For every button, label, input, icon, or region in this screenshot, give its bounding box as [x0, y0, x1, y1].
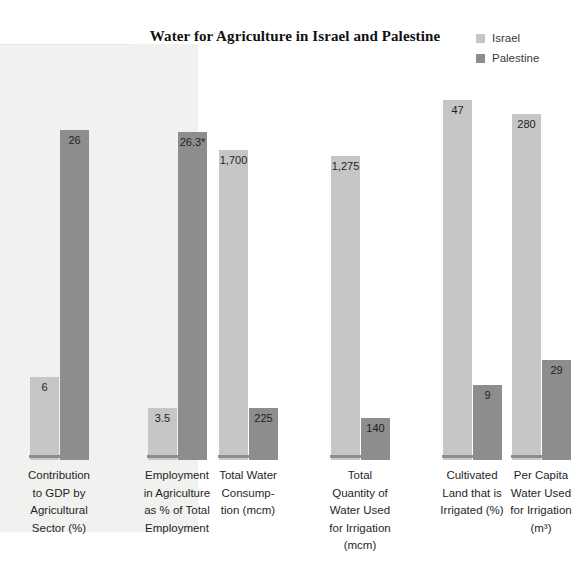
bar-value-palestine: 9 — [473, 389, 502, 402]
legend-item-israel: Israel — [476, 28, 539, 48]
category-text: Contribution to GDP by Agricultural Sect… — [14, 467, 104, 537]
category-rule — [218, 455, 278, 458]
bar-israel[interactable]: 3.5 — [148, 408, 177, 460]
plot-area: 6 26 3.5 26.3* 1,700 — [0, 60, 584, 460]
category-label-2: Total Water Consump- tion (mcm) — [203, 455, 293, 520]
bar-pair: 6 26 — [30, 68, 89, 460]
bar-pair: 1,700 225 — [219, 68, 278, 460]
bar-palestine[interactable]: 9 — [473, 385, 502, 460]
category-text: Per Capita Water Used for Irrigation (m³… — [496, 467, 584, 537]
bar-israel[interactable]: 6 — [30, 377, 59, 460]
bar-group: 6 26 — [30, 68, 89, 460]
bar-value-israel: 1,275 — [331, 160, 360, 173]
bar-palestine[interactable]: 225 — [249, 408, 278, 460]
bar-value-israel: 47 — [443, 104, 472, 117]
bar-israel[interactable]: 47 — [443, 100, 472, 460]
bar-value-palestine: 29 — [542, 364, 571, 377]
category-rule — [511, 455, 571, 458]
category-rule — [442, 455, 502, 458]
bar-group: 3.5 26.3* — [148, 68, 207, 460]
chart-title: Water for Agriculture in Israel and Pale… — [132, 28, 458, 45]
bar-palestine[interactable]: 26.3* — [178, 132, 207, 460]
bar-value-palestine: 26 — [60, 134, 89, 147]
bar-pair: 1,275 140 — [331, 68, 390, 460]
top-divider-rule — [0, 44, 132, 45]
bar-israel[interactable]: 280 — [512, 114, 541, 460]
category-text: Total Water Consump- tion (mcm) — [203, 467, 293, 520]
category-label-5: Per Capita Water Used for Irrigation (m³… — [496, 455, 584, 537]
category-rule — [29, 455, 89, 458]
bar-value-israel: 280 — [512, 118, 541, 131]
category-label-3: Total Quantity of Water Used for Irrigat… — [315, 455, 405, 555]
bar-value-israel: 1,700 — [219, 154, 248, 167]
bar-group: 1,700 225 — [219, 68, 278, 460]
bar-group: 47 9 — [443, 68, 502, 460]
chart-root: Water for Agriculture in Israel and Pale… — [0, 0, 584, 581]
legend-swatch-israel — [476, 34, 485, 43]
bar-palestine[interactable]: 29 — [542, 360, 571, 460]
bar-palestine[interactable]: 26 — [60, 130, 89, 460]
legend-label-israel: Israel — [492, 32, 520, 44]
bar-palestine[interactable]: 140 — [361, 418, 390, 460]
bar-pair: 47 9 — [443, 68, 502, 460]
bar-israel[interactable]: 1,275 — [331, 156, 360, 460]
bar-value-palestine: 26.3* — [178, 136, 207, 149]
category-label-0: Contribution to GDP by Agricultural Sect… — [14, 455, 104, 537]
bar-value-palestine: 225 — [249, 412, 278, 425]
bar-pair: 280 29 — [512, 68, 571, 460]
category-text: Total Quantity of Water Used for Irrigat… — [315, 467, 405, 555]
bar-value-israel: 6 — [30, 381, 59, 394]
category-axis-labels: Contribution to GDP by Agricultural Sect… — [0, 455, 584, 581]
category-rule — [147, 455, 207, 458]
bar-value-palestine: 140 — [361, 422, 390, 435]
bar-value-israel: 3.5 — [148, 412, 177, 425]
bar-group: 1,275 140 — [331, 68, 390, 460]
category-rule — [330, 455, 390, 458]
bar-pair: 3.5 26.3* — [148, 68, 207, 460]
bar-group: 280 29 — [512, 68, 571, 460]
bar-israel[interactable]: 1,700 — [219, 150, 248, 460]
